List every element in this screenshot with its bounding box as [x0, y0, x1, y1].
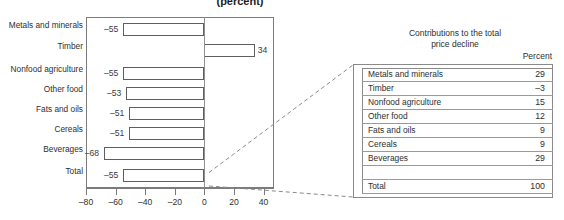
category-label: Metals and minerals: [0, 20, 83, 30]
bar-value-label: –51: [110, 127, 124, 140]
bar: [123, 23, 204, 36]
bar-value-label: –53: [107, 87, 121, 100]
table-row-label: Fats and oils: [368, 125, 415, 135]
table-total-label: Total: [368, 181, 386, 191]
axis-tick-label: –20: [160, 197, 190, 207]
chart-title: (percent): [190, 0, 290, 7]
table-row-value: 9: [540, 139, 545, 149]
category-label: Total: [0, 166, 83, 176]
table-row-value: 12: [535, 111, 545, 121]
category-label: Beverages: [0, 144, 83, 154]
axis-tick-label: –40: [130, 197, 160, 207]
category-label: Fats and oils: [0, 104, 83, 114]
bar: [204, 44, 254, 57]
table-row-label: Nonfood agriculture: [368, 97, 441, 107]
axis-tick-label: 0: [189, 197, 219, 207]
axis-tick: [145, 188, 146, 195]
category-label: Other food: [0, 84, 83, 94]
bar: [104, 147, 205, 160]
contributions-table-panel: Contributions to the total price decline…: [340, 0, 564, 220]
table-title: Contributions to the total price decline: [360, 28, 550, 50]
figure-root: (percent) Metals and mineralsTimberNonfo…: [0, 0, 564, 220]
table-row-value: 9: [540, 125, 545, 135]
bar: [123, 169, 204, 182]
axis-tick-label: –80: [71, 197, 101, 207]
axis-tick: [86, 188, 87, 195]
axis-tick-label: –60: [101, 197, 131, 207]
axis-tick: [116, 188, 117, 195]
value-axis: –80–60–40–2002040: [86, 188, 274, 218]
table-title-line1: Contributions to the total: [360, 28, 550, 39]
table-row: Timber–3: [362, 82, 553, 96]
table-total-value: 100: [530, 181, 545, 191]
table-row-value: –3: [535, 83, 545, 93]
bar-value-label: –68: [85, 147, 99, 160]
bar-value-label: 34: [258, 44, 268, 57]
bar: [126, 87, 204, 100]
table-row: Beverages29: [362, 152, 553, 166]
axis-tick: [234, 188, 235, 195]
category-label: Nonfood agriculture: [0, 64, 83, 74]
axis-line: [86, 188, 274, 189]
bar-value-label: –55: [104, 67, 118, 80]
axis-tick-label: 40: [249, 197, 279, 207]
table-row: Other food12: [362, 110, 553, 124]
axis-tick: [264, 188, 265, 195]
bar: [129, 127, 204, 140]
zero-baseline: [204, 17, 205, 188]
category-axis-labels: Metals and mineralsTimberNonfood agricul…: [0, 17, 83, 188]
table-row: Cereals9: [362, 138, 553, 152]
table-column-header: Percent: [523, 51, 552, 61]
table-row-label: Metals and minerals: [368, 69, 443, 79]
table-row-label: Timber: [368, 83, 394, 93]
bar-value-label: –51: [110, 107, 124, 120]
axis-tick: [204, 188, 205, 195]
table-row: Fats and oils9: [362, 124, 553, 138]
bar-value-label: –55: [104, 169, 118, 182]
table-row-label: Cereals: [368, 139, 397, 149]
axis-tick-label: 20: [219, 197, 249, 207]
category-label: Cereals: [0, 124, 83, 134]
axis-tick: [175, 188, 176, 195]
table-row-value: 29: [535, 69, 545, 79]
bar: [129, 107, 204, 120]
bar-chart-panel: (percent) Metals and mineralsTimberNonfo…: [0, 0, 300, 220]
table-row-value: 15: [535, 97, 545, 107]
bar: [123, 67, 204, 80]
category-label: Timber: [0, 41, 83, 51]
table-row-label: Beverages: [368, 153, 408, 163]
table-title-line2: price decline: [360, 39, 550, 50]
table-row-value: 29: [535, 153, 545, 163]
table-row-label: Other food: [368, 111, 408, 121]
bars-group: –5534–55–53–51–51–68–55: [86, 17, 274, 188]
table-spacer-row: [362, 166, 553, 180]
table-row: Metals and minerals29: [362, 68, 553, 82]
table-total-row: Total100: [362, 180, 553, 194]
table-row: Nonfood agriculture15: [362, 96, 553, 110]
bar-value-label: –55: [104, 23, 118, 36]
